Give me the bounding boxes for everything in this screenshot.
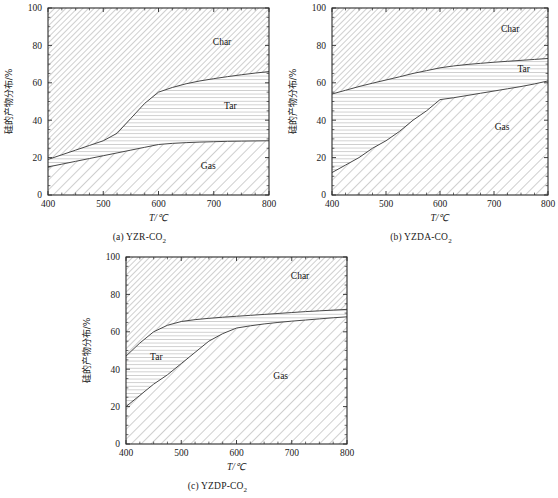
y-axis-label: 硅的产物分布/% [81,317,92,383]
x-tick-label: 400 [325,199,340,209]
y-tick-label: 80 [111,290,121,300]
chart-panel-a: 400500600700800020406080100T/℃硅的产物分布/%Ch… [0,0,279,249]
x-axis-label: T/℃ [227,462,247,472]
y-tick-label: 40 [111,365,121,375]
y-axis-label: 硅的产物分布/% [3,68,14,134]
x-tick-label: 800 [340,448,355,458]
x-tick-label: 400 [119,448,134,458]
caption-subscript: 2 [448,237,452,245]
x-tick-label: 500 [379,199,394,209]
panel-caption-c: (c) YZDP-CO2 [78,481,357,494]
y-tick-label: 80 [33,41,43,51]
y-tick-label: 60 [111,327,121,337]
x-tick-label: 700 [207,199,222,209]
panel-caption-a: (a) YZR-CO2 [0,232,279,245]
chart-svg-a: 400500600700800020406080100T/℃硅的产物分布/%Ch… [0,0,279,249]
y-tick-label: 0 [321,190,326,200]
y-tick-label: 100 [28,3,43,13]
region-label-char: Char [213,37,232,47]
chart-panel-b: 400500600700800020406080100T/℃硅的产物分布/%Ch… [284,0,558,249]
region-label-gas: Gas [495,122,510,132]
chart-panel-c: 400500600700800020406080100T/℃硅的产物分布/%Ch… [78,249,357,498]
caption-text: (a) YZR-CO [113,232,163,242]
caption-subscript: 2 [163,237,167,245]
region-label-tar: Tar [517,64,530,74]
y-tick-label: 0 [115,439,120,449]
caption-text: (b) YZDA-CO [390,232,448,242]
x-tick-label: 800 [262,199,277,209]
x-tick-label: 700 [487,199,502,209]
x-axis-label: T/℃ [149,213,169,223]
region-label-char: Char [501,24,520,34]
y-tick-label: 80 [317,41,327,51]
caption-text: (c) YZDP-CO [188,481,244,491]
y-tick-label: 60 [317,78,327,88]
x-tick-label: 600 [151,199,166,209]
region-label-tar: Tar [224,101,237,111]
y-tick-label: 20 [317,153,327,163]
y-tick-label: 60 [33,78,43,88]
chart-svg-b: 400500600700800020406080100T/℃硅的产物分布/%Ch… [284,0,558,249]
panel-caption-b: (b) YZDA-CO2 [284,232,558,245]
x-tick-label: 700 [285,448,300,458]
y-tick-label: 100 [106,252,121,262]
region-label-gas: Gas [273,371,288,381]
y-axis-label: 硅的产物分布/% [287,68,298,134]
y-tick-label: 0 [37,190,42,200]
chart-svg-c: 400500600700800020406080100T/℃硅的产物分布/%Ch… [78,249,357,498]
y-tick-label: 100 [312,3,327,13]
x-tick-label: 500 [174,448,189,458]
x-axis-label: T/℃ [431,213,451,223]
y-tick-label: 40 [317,116,327,126]
caption-subscript: 2 [244,486,248,494]
x-tick-label: 400 [41,199,56,209]
region-label-gas: Gas [201,161,216,171]
x-tick-label: 600 [229,448,244,458]
x-tick-label: 800 [541,199,556,209]
y-tick-label: 20 [33,153,43,163]
x-tick-label: 500 [96,199,111,209]
y-tick-label: 20 [111,402,121,412]
region-label-tar: Tar [150,352,163,362]
y-tick-label: 40 [33,116,43,126]
region-label-char: Char [291,271,310,281]
x-tick-label: 600 [433,199,448,209]
